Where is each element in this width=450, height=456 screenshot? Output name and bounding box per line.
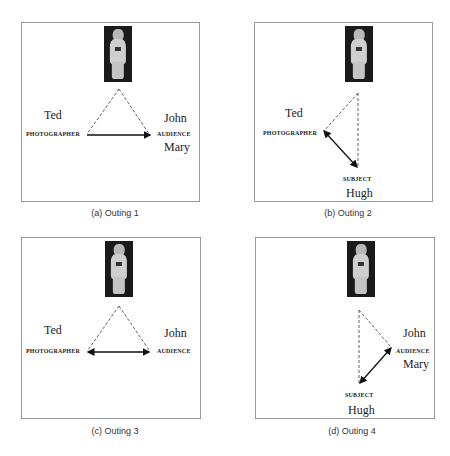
caption-outing-4: (d) Outing 4	[317, 426, 387, 436]
name-john: John	[403, 326, 426, 341]
relationship-lines-d	[0, 0, 450, 456]
name-mary: Mary	[403, 357, 429, 372]
role-subject: SUBJECT	[345, 392, 373, 398]
role-audience: AUDIENCE	[396, 348, 430, 354]
name-hugh: Hugh	[348, 403, 375, 418]
